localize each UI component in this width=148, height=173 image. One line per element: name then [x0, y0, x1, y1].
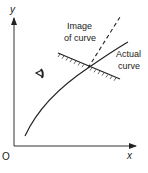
x-axis-label: x — [126, 150, 133, 161]
mirror-hatching — [58, 54, 116, 81]
reflection-diagram: y x O Image of curve Actual curve — [0, 0, 148, 173]
origin-label: O — [2, 151, 10, 162]
actual-curve — [25, 42, 128, 136]
y-axis-label: y — [9, 4, 16, 15]
actual-label-line2: curve — [118, 61, 140, 71]
image-label-line1: Image — [67, 21, 92, 31]
image-label-line2: of curve — [64, 33, 96, 43]
mirror-line — [58, 53, 120, 79]
eye-icon — [36, 69, 43, 78]
actual-label-line1: Actual — [116, 49, 141, 59]
